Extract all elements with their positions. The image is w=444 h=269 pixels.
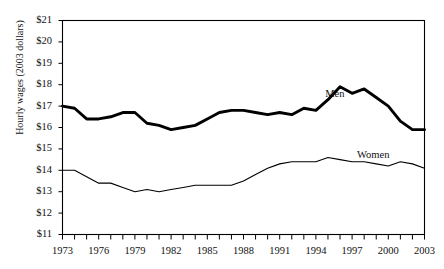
series-line-women (63, 157, 425, 191)
x-tick-label: 2000 (371, 246, 405, 257)
x-tick-label: 1994 (299, 246, 333, 257)
series-label-women: Women (357, 149, 389, 160)
plot-area (0, 0, 444, 269)
x-tick-label: 2003 (408, 246, 442, 257)
x-tick-label: 1991 (263, 246, 297, 257)
series-line-men (63, 87, 425, 130)
x-tick-label: 1997 (335, 246, 369, 257)
x-tick-label: 1979 (118, 246, 152, 257)
x-tick-label: 1976 (82, 246, 116, 257)
x-tick-label: 1985 (190, 246, 224, 257)
wage-line-chart: Hourly wages (2003 dollars) $11$12$13$14… (0, 0, 444, 269)
x-tick-label: 1973 (46, 246, 80, 257)
plot-frame (63, 21, 425, 235)
x-tick-label: 1982 (154, 246, 188, 257)
series-label-men: Men (325, 88, 344, 99)
x-tick-label: 1988 (227, 246, 261, 257)
